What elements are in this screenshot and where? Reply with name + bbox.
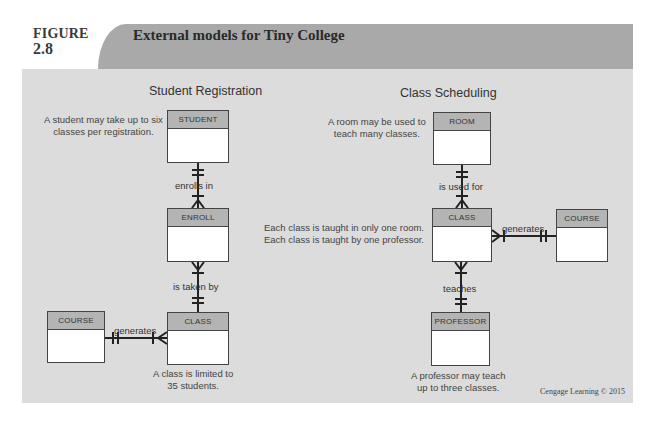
rel-is-used-for: is used for xyxy=(439,181,483,192)
professor-note: A professor may teach up to three classe… xyxy=(411,370,506,394)
student-note: A student may take up to six classes per… xyxy=(44,114,163,138)
entity-class-left-name: CLASS xyxy=(168,313,228,331)
entity-professor-name: PROFESSOR xyxy=(432,313,489,331)
entity-room[interactable]: ROOM xyxy=(433,112,491,165)
professor-note-line2: up to three classes. xyxy=(417,382,499,393)
rel-teaches: teaches xyxy=(443,283,476,294)
entity-course-left-name: COURSE xyxy=(48,312,104,330)
entity-course-right-name: COURSE xyxy=(557,210,607,228)
student-note-line1: A student may take up to six xyxy=(44,114,163,125)
entity-student-name: STUDENT xyxy=(168,111,228,129)
entity-course-left[interactable]: COURSE xyxy=(47,311,105,363)
room-note-line2: teach many classes. xyxy=(334,128,420,139)
entity-student[interactable]: STUDENT xyxy=(167,110,229,163)
room-note-line1: A room may be used to xyxy=(328,116,426,127)
class-schedule-note: Each class is taught in only one room. E… xyxy=(264,222,424,246)
rel-is-taken-by: is taken by xyxy=(173,281,218,292)
class-limit-note-line1: A class is limited to xyxy=(153,368,233,379)
class-schedule-note-line2: Each class is taught by one professor. xyxy=(264,234,424,245)
room-note: A room may be used to teach many classes… xyxy=(328,116,426,140)
entity-class-right-name: CLASS xyxy=(433,209,491,227)
rel-generates-left: generates xyxy=(114,325,156,336)
entity-enroll[interactable]: ENROLL xyxy=(167,208,229,262)
class-limit-note: A class is limited to 35 students. xyxy=(153,368,233,392)
entity-class-left[interactable]: CLASS xyxy=(167,312,229,365)
copyright-credit: Cengage Learning © 2015 xyxy=(540,387,625,396)
entity-professor[interactable]: PROFESSOR xyxy=(431,312,490,366)
entity-enroll-name: ENROLL xyxy=(168,209,228,227)
class-schedule-note-line1: Each class is taught in only one room. xyxy=(264,222,424,233)
student-registration-title: Student Registration xyxy=(149,84,262,98)
professor-note-line1: A professor may teach xyxy=(411,370,506,381)
entity-course-right[interactable]: COURSE xyxy=(556,209,608,262)
entity-class-right[interactable]: CLASS xyxy=(432,208,492,262)
rel-enrolls-in: enrolls in xyxy=(175,180,213,191)
class-limit-note-line2: 35 students. xyxy=(167,380,219,391)
class-scheduling-title: Class Scheduling xyxy=(400,86,497,100)
entity-room-name: ROOM xyxy=(434,113,490,131)
student-note-line2: classes per registration. xyxy=(53,126,153,137)
rel-generates-right: generates xyxy=(502,223,544,234)
